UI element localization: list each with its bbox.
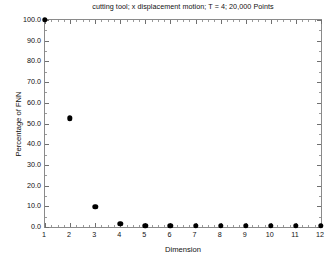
x-tick-minor	[108, 20, 109, 22]
x-tick-minor	[252, 225, 253, 227]
x-tick-minor	[227, 20, 228, 22]
y-tick-major	[45, 103, 49, 104]
x-tick-minor	[108, 225, 109, 227]
y-tick-major	[45, 144, 49, 145]
data-point	[243, 223, 248, 228]
x-tick-minor	[64, 20, 65, 22]
x-tick-minor	[177, 20, 178, 22]
y-tick-major	[45, 186, 49, 187]
x-tick-major	[70, 20, 71, 24]
x-tick-minor	[133, 225, 134, 227]
y-tick-minor	[319, 30, 321, 31]
y-tick-minor	[319, 217, 321, 218]
x-tick-minor	[127, 225, 128, 227]
y-tick-minor	[319, 196, 321, 197]
y-tick-major	[45, 124, 49, 125]
y-tick-minor	[45, 92, 47, 93]
data-point	[42, 17, 47, 22]
x-tick-minor	[283, 20, 284, 22]
y-tick-minor	[45, 30, 47, 31]
y-tick-major	[45, 82, 49, 83]
x-tick-minor	[76, 20, 77, 22]
x-tick-minor	[152, 225, 153, 227]
x-tick-minor	[315, 20, 316, 22]
plot-frame	[44, 19, 322, 228]
x-tick-major	[170, 20, 171, 24]
y-tick-major	[45, 165, 49, 166]
x-tick-minor	[239, 225, 240, 227]
data-point	[168, 223, 173, 228]
y-tick-label: 60.0	[3, 98, 41, 107]
x-tick-minor	[315, 225, 316, 227]
x-tick-label: 10	[258, 230, 282, 239]
y-tick-minor	[319, 155, 321, 156]
y-tick-major	[317, 206, 321, 207]
x-tick-minor	[233, 20, 234, 22]
x-tick-minor	[208, 20, 209, 22]
x-tick-minor	[83, 20, 84, 22]
y-tick-major	[317, 144, 321, 145]
x-tick-minor	[265, 225, 266, 227]
x-tick-minor	[202, 20, 203, 22]
x-tick-major	[120, 20, 121, 24]
y-tick-major	[317, 82, 321, 83]
x-tick-minor	[202, 225, 203, 227]
y-tick-minor	[319, 134, 321, 135]
x-tick-minor	[58, 225, 59, 227]
data-point	[293, 223, 298, 228]
x-tick-minor	[183, 225, 184, 227]
y-tick-major	[45, 227, 49, 228]
x-tick-label: 8	[208, 230, 232, 239]
y-tick-major	[317, 165, 321, 166]
x-tick-minor	[265, 20, 266, 22]
x-tick-minor	[214, 225, 215, 227]
x-tick-minor	[283, 225, 284, 227]
x-tick-label: 3	[82, 230, 106, 239]
x-tick-label: 1	[32, 230, 56, 239]
x-tick-minor	[183, 20, 184, 22]
y-tick-minor	[319, 72, 321, 73]
y-tick-label: 90.0	[3, 36, 41, 45]
data-point	[193, 223, 198, 228]
y-tick-minor	[319, 113, 321, 114]
x-tick-minor	[58, 20, 59, 22]
x-tick-minor	[189, 20, 190, 22]
y-tick-major	[317, 41, 321, 42]
x-tick-minor	[252, 20, 253, 22]
x-tick-minor	[139, 20, 140, 22]
x-tick-minor	[101, 20, 102, 22]
y-tick-label: 50.0	[3, 119, 41, 128]
plot-area	[45, 20, 321, 227]
y-tick-label: 80.0	[3, 56, 41, 65]
x-tick-major	[196, 20, 197, 24]
x-tick-label: 5	[132, 230, 156, 239]
data-point	[118, 221, 123, 226]
x-tick-label: 12	[308, 230, 332, 239]
x-tick-minor	[227, 225, 228, 227]
x-tick-minor	[290, 225, 291, 227]
y-tick-minor	[319, 92, 321, 93]
x-tick-minor	[277, 225, 278, 227]
y-tick-minor	[45, 217, 47, 218]
y-tick-minor	[45, 51, 47, 52]
x-tick-minor	[277, 20, 278, 22]
x-tick-major	[70, 223, 71, 227]
x-tick-major	[95, 223, 96, 227]
y-tick-label: 100.0	[3, 15, 41, 24]
x-tick-minor	[308, 20, 309, 22]
x-tick-minor	[89, 225, 90, 227]
x-tick-major	[145, 20, 146, 24]
data-point	[143, 223, 148, 228]
y-tick-label: 10.0	[3, 201, 41, 210]
y-tick-minor	[319, 175, 321, 176]
x-tick-minor	[101, 225, 102, 227]
chart-title: cutting tool; x displacement motion; T =…	[44, 2, 322, 12]
x-tick-major	[321, 20, 322, 24]
x-tick-minor	[64, 225, 65, 227]
x-tick-minor	[308, 225, 309, 227]
x-tick-minor	[239, 20, 240, 22]
x-tick-minor	[133, 20, 134, 22]
x-axis-title: Dimension	[44, 245, 322, 254]
y-tick-minor	[45, 113, 47, 114]
y-tick-label: 20.0	[3, 181, 41, 190]
